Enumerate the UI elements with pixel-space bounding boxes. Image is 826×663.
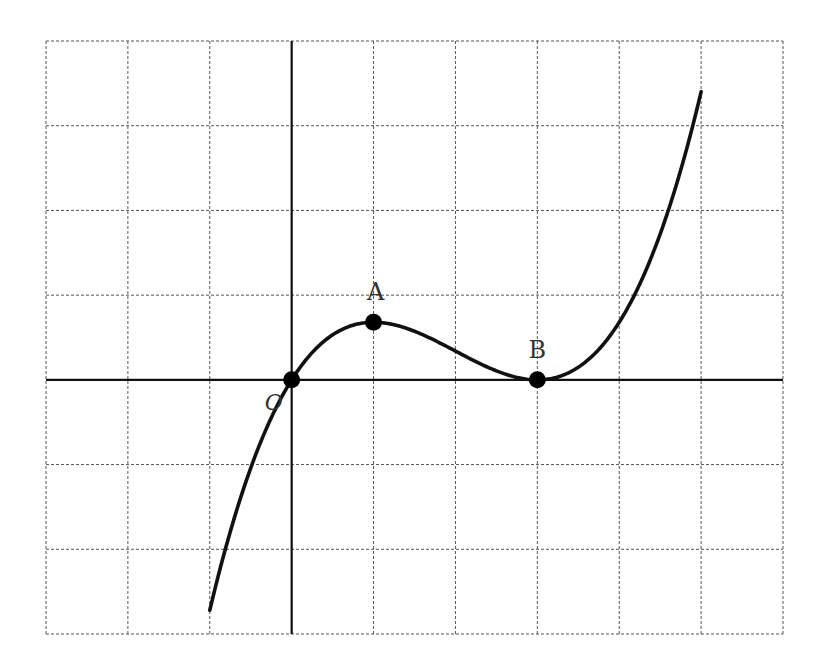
- labels-layer: OAB: [265, 278, 547, 415]
- label-b: B: [529, 336, 547, 364]
- points-layer: [283, 314, 546, 389]
- point-a: [365, 314, 382, 331]
- label-a: A: [366, 278, 385, 306]
- grid: [46, 41, 783, 634]
- point-o: [283, 371, 300, 388]
- label-o: O: [265, 390, 283, 415]
- function-graph: OAB: [0, 0, 826, 663]
- point-b: [529, 371, 546, 388]
